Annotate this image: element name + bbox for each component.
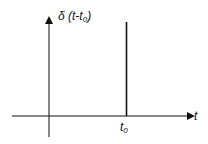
impulse-diagram: δ (t-t0) t t0: [0, 0, 208, 144]
impulse-time-label: t0: [120, 120, 128, 135]
x-axis-label: t: [194, 109, 198, 123]
y-axis-label: δ (t-t0): [58, 9, 91, 24]
